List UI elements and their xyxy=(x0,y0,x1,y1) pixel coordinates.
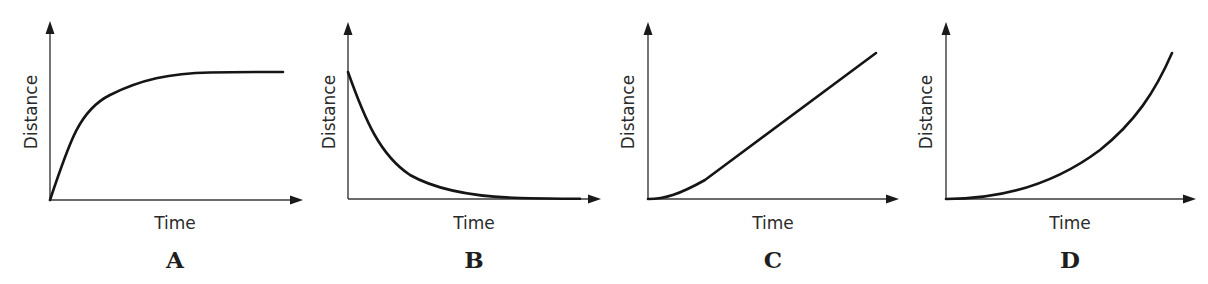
panel-a-curve xyxy=(50,72,283,200)
panel-d-x-axis-arrow-icon xyxy=(1183,195,1196,204)
panel-b-curve xyxy=(348,72,580,199)
panel-b-letter: B xyxy=(464,246,483,273)
distance-time-graphs-figure: Distance Time A Distance Time B Distance… xyxy=(0,0,1208,284)
panel-d-graph xyxy=(942,22,1197,204)
panel-c-y-axis-label: Distance xyxy=(618,75,638,149)
panel-c-graph xyxy=(644,22,900,204)
panel-c-letter: C xyxy=(764,246,782,273)
panel-d-letter: D xyxy=(1060,246,1080,273)
panel-a-letter: A xyxy=(166,246,184,273)
panel-d-y-axis-arrow-icon xyxy=(942,22,951,35)
panel-a-y-axis-arrow-icon xyxy=(46,21,55,34)
panel-b-x-axis-arrow-icon xyxy=(588,195,601,204)
panel-c-x-axis-arrow-icon xyxy=(886,195,899,204)
panel-a-graph xyxy=(46,21,304,205)
panel-a-x-axis-label: Time xyxy=(154,213,196,233)
panel-c-y-axis-arrow-icon xyxy=(644,22,653,35)
panel-a-x-axis-arrow-icon xyxy=(290,196,303,205)
panel-a-y-axis-label: Distance xyxy=(21,75,41,149)
plots-canvas xyxy=(0,0,1208,284)
panel-d-x-axis-label: Time xyxy=(1049,213,1091,233)
panel-d-curve xyxy=(946,53,1172,199)
panel-b-y-axis-arrow-icon xyxy=(344,22,353,35)
panel-b-x-axis-label: Time xyxy=(453,213,495,233)
panel-b-graph xyxy=(344,22,602,204)
panel-c-x-axis-label: Time xyxy=(752,213,794,233)
panel-b-y-axis-label: Distance xyxy=(319,75,339,149)
panel-c-curve xyxy=(648,53,876,199)
panel-d-y-axis-label: Distance xyxy=(916,75,936,149)
